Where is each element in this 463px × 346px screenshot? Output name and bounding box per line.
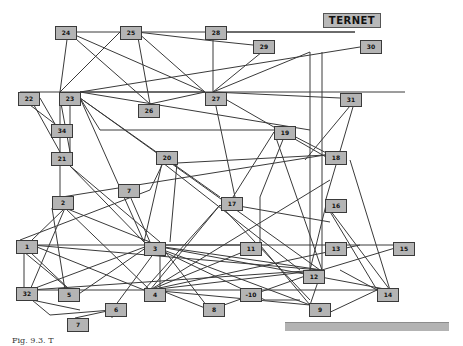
edge [213, 92, 326, 157]
node-21: 21 [51, 152, 73, 166]
edge [80, 98, 100, 130]
node-7b: 7 [67, 318, 89, 332]
node-25: 25 [120, 26, 142, 40]
node-24: 24 [55, 26, 77, 40]
node-26: 26 [138, 104, 160, 118]
node-34: 34 [51, 124, 73, 138]
node-11: 11 [240, 242, 262, 256]
edge [137, 32, 205, 92]
edge [80, 47, 360, 92]
node-7a: 7 [118, 184, 140, 198]
node-22: 22 [18, 92, 40, 106]
diagram-title: TERNET [323, 13, 381, 28]
edge [60, 32, 120, 92]
edge [177, 155, 326, 163]
node-5: 5 [58, 288, 80, 302]
node-4: 4 [144, 288, 166, 302]
node-29: 29 [253, 40, 275, 54]
node-3: 3 [144, 242, 166, 256]
node-8: 8 [203, 303, 225, 317]
node-20: 20 [156, 151, 178, 165]
edge [213, 52, 262, 92]
node-2: 2 [52, 196, 74, 210]
node-13: 13 [325, 242, 347, 256]
edge [205, 40, 253, 45]
edge [32, 208, 65, 240]
edge [60, 32, 68, 92]
edge [213, 92, 340, 98]
edge [80, 98, 320, 270]
edge [70, 245, 150, 300]
edge [213, 52, 310, 92]
edge [137, 32, 205, 40]
edge [326, 100, 355, 199]
edge [213, 92, 235, 197]
node-28: 28 [205, 26, 227, 40]
edge [137, 32, 150, 104]
edge [80, 92, 310, 130]
node-14: 14 [377, 288, 399, 302]
network-diagram: 2425282930222326273134192120182717161311… [0, 0, 463, 346]
node-18: 18 [325, 151, 347, 165]
node-19: 19 [274, 126, 296, 140]
edge [62, 155, 325, 197]
edge [144, 163, 162, 242]
node-9: 9 [309, 303, 331, 317]
edge [310, 205, 326, 270]
node-30: 30 [360, 40, 382, 54]
node-6: 6 [105, 303, 127, 317]
node-15: 15 [393, 242, 415, 256]
edge [70, 166, 144, 242]
node-32: 32 [16, 287, 38, 301]
node-10: -10 [240, 288, 262, 302]
node-17: 17 [221, 197, 243, 211]
grey-bar [285, 322, 449, 331]
edge [233, 205, 330, 222]
node-16: 16 [325, 199, 347, 213]
node-12: 12 [303, 270, 325, 284]
edge [150, 92, 205, 104]
node-31: 31 [340, 93, 362, 107]
edge [170, 163, 177, 242]
edge [350, 160, 390, 290]
node-27: 27 [205, 92, 227, 106]
figure-caption: Fig. 9.3. T [12, 336, 53, 345]
node-1: 1 [16, 240, 38, 254]
node-23: 23 [59, 92, 81, 106]
